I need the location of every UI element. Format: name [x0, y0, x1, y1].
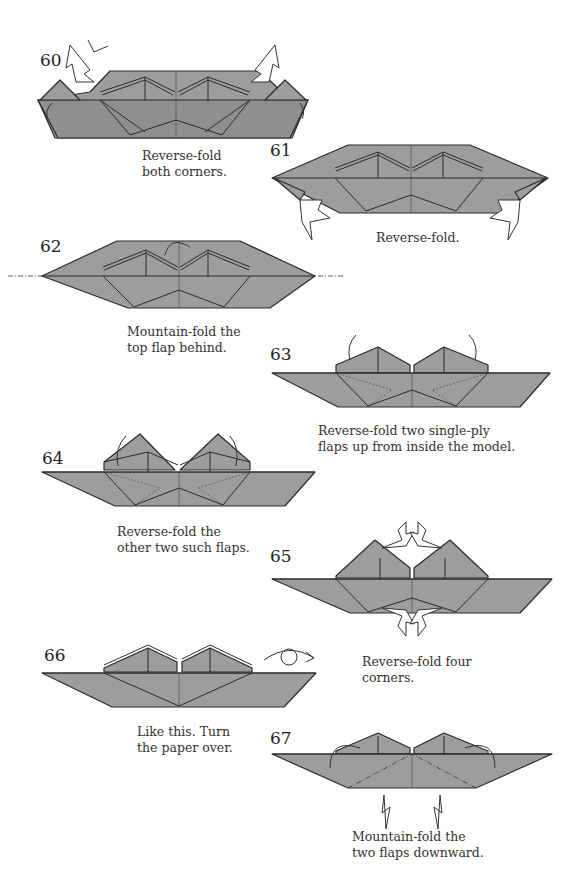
- mountain-fold-arrow-icon: [434, 795, 442, 829]
- mountain-fold-arrow-icon: [382, 795, 390, 829]
- step-caption: Mountain-fold the two flaps downward.: [352, 829, 484, 861]
- step-67-diagram: [0, 0, 583, 887]
